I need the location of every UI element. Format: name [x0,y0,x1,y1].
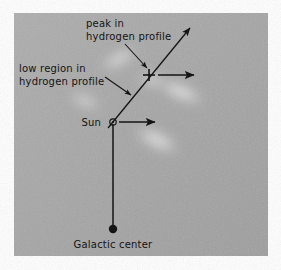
low-region-label-line1: low region in [19,63,86,74]
galaxy-diagram: peak in hydrogen profile low region in h… [0,0,281,270]
filled-dot-icon [109,225,117,233]
figure-root: peak in hydrogen profile low region in h… [0,0,281,270]
low-region-label-line2: hydrogen profile [19,76,104,87]
peak-label-line1: peak in [86,18,124,29]
sun-label: Sun [81,117,101,128]
galactic-center-label: Galactic center [74,239,154,250]
peak-label-line2: hydrogen profile [86,31,171,42]
